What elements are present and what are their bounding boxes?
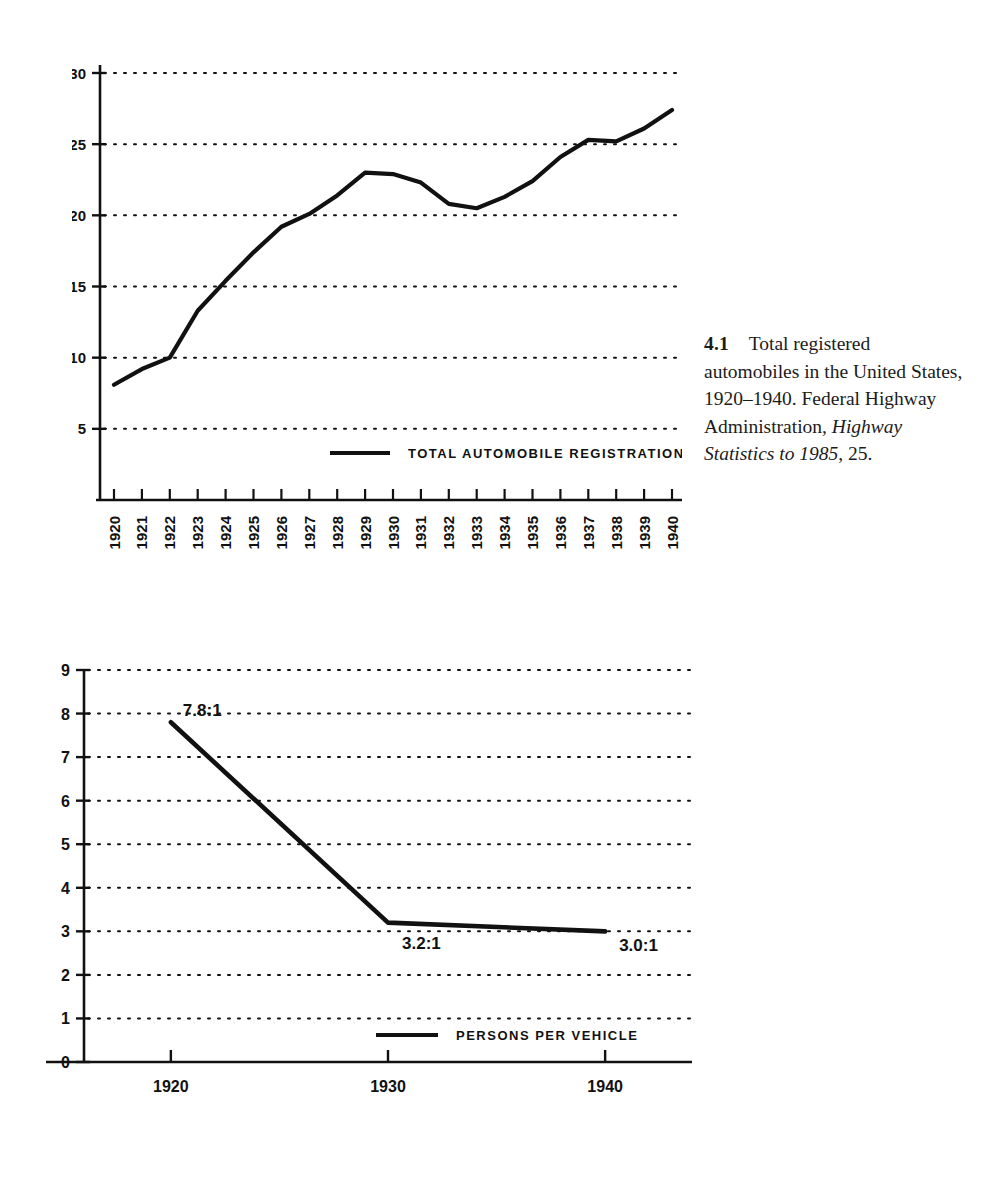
chart-1-legend: TOTAL AUTOMOBILE REGISTRATIONS <box>330 446 682 461</box>
chart-1-x-tick-label: 1922 <box>161 516 178 549</box>
chart-2-data-line <box>171 722 605 931</box>
chart-2-point-label: 3.0:1 <box>619 936 658 955</box>
chart-2-legend-label: PERSONS PER VEHICLE <box>456 1028 638 1043</box>
chart-1-x-ticks <box>114 489 672 500</box>
chart-1-x-tick-label: 1936 <box>552 516 569 549</box>
chart-2-y-tick-label: 3 <box>61 923 70 940</box>
chart-1-x-tick-label: 1925 <box>245 516 262 549</box>
chart-2-y-tick-label: 9 <box>61 662 70 679</box>
chart-1-data-line <box>114 110 672 385</box>
chart-1-x-tick-label: 1929 <box>357 516 374 549</box>
chart-2-x-tick-label: 1940 <box>587 1078 623 1095</box>
chart-1-x-tick-label: 1940 <box>664 516 681 549</box>
chart-1-x-tick-label: 1932 <box>440 516 457 549</box>
chart-2-plot: 0123456789 192019301940 7.8:13.2:13.0:1 … <box>46 660 692 1140</box>
chart-2-point-labels: 7.8:13.2:13.0:1 <box>183 701 658 955</box>
chart-2-x-tick-label: 1930 <box>370 1078 406 1095</box>
figure-page: 51015202530 1920192119221923192419251926… <box>0 0 992 1193</box>
chart-1-plot: 51015202530 1920192119221923192419251926… <box>72 60 682 550</box>
chart-1-x-tick-label: 1927 <box>301 516 318 549</box>
chart-1-x-tick-label: 1920 <box>106 516 123 549</box>
chart-1-x-tick-label: 1939 <box>636 516 653 549</box>
chart-2-y-tick-label: 4 <box>61 880 70 897</box>
chart-2-y-tick-labels: 0123456789 <box>61 662 70 1071</box>
chart-2-y-tick-label: 1 <box>61 1010 70 1027</box>
chart-2-y-tick-label: 6 <box>61 793 70 810</box>
chart-1-x-tick-label: 1937 <box>580 516 597 549</box>
chart-1-x-tick-label: 1921 <box>133 516 150 549</box>
chart-1-y-tick-label: 30 <box>72 65 86 82</box>
chart-2-legend: PERSONS PER VEHICLE <box>376 1028 638 1043</box>
chart-2-y-tick-label: 5 <box>61 836 70 853</box>
chart-1-x-tick-label: 1923 <box>189 516 206 549</box>
chart-1-x-tick-label: 1926 <box>273 516 290 549</box>
chart-1-x-tick-labels: 1920192119221923192419251926192719281929… <box>106 515 681 549</box>
caption-text-run: , 25. <box>838 443 872 464</box>
chart-1-x-tick-label: 1934 <box>496 515 513 549</box>
chart-2-y-tick-label: 2 <box>61 967 70 984</box>
chart-2-x-ticks <box>171 1050 605 1062</box>
figure-4-1-number: 4.1 <box>704 333 749 354</box>
chart-1-y-tick-labels: 51015202530 <box>72 65 86 438</box>
figure-4-1-caption: 4.1Total registered automobiles in the U… <box>704 330 966 468</box>
chart-1-x-tick-label: 1938 <box>608 516 625 549</box>
figure-4-1: 51015202530 1920192119221923192419251926… <box>0 0 992 640</box>
chart-1-gridlines <box>104 73 682 429</box>
chart-2-point-label: 7.8:1 <box>183 701 222 720</box>
chart-1-y-tick-label: 25 <box>72 136 86 153</box>
chart-2-x-tick-labels: 192019301940 <box>153 1078 623 1095</box>
chart-2-y-tick-label: 8 <box>61 706 70 723</box>
chart-2-gridlines <box>88 670 692 1018</box>
chart-1-x-tick-label: 1933 <box>468 516 485 549</box>
chart-2-svg: 0123456789 192019301940 7.8:13.2:13.0:1 … <box>46 660 692 1140</box>
chart-1-y-tick-label: 20 <box>72 207 86 224</box>
chart-2-point-label: 3.2:1 <box>402 934 441 953</box>
chart-1-svg: 51015202530 1920192119221923192419251926… <box>72 60 682 550</box>
figure-4-2: 0123456789 192019301940 7.8:13.2:13.0:1 … <box>0 640 992 1193</box>
chart-1-y-tick-label: 10 <box>72 349 86 366</box>
chart-1-y-tick-label: 15 <box>72 278 86 295</box>
chart-1-y-tick-label: 5 <box>78 420 86 437</box>
chart-1-legend-label: TOTAL AUTOMOBILE REGISTRATIONS <box>408 446 682 461</box>
chart-2-y-tick-label: 7 <box>61 749 70 766</box>
chart-1-x-tick-label: 1930 <box>385 516 402 549</box>
chart-1-x-tick-label: 1928 <box>329 516 346 549</box>
chart-1-x-tick-label: 1924 <box>217 515 234 549</box>
chart-1-x-tick-label: 1931 <box>412 516 429 549</box>
chart-2-x-tick-label: 1920 <box>153 1078 189 1095</box>
chart-1-x-tick-label: 1935 <box>524 516 541 549</box>
